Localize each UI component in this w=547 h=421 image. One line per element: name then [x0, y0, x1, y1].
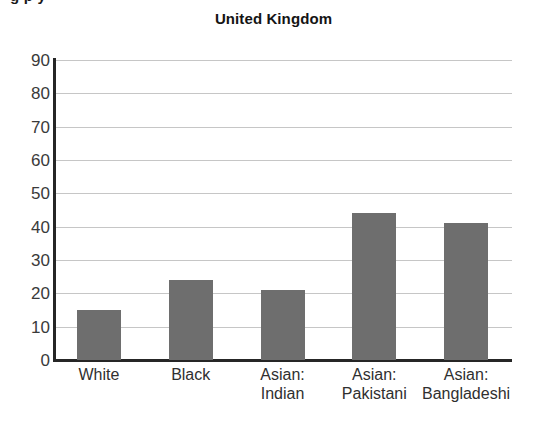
bar: [77, 310, 121, 360]
chart-title: United Kingdom: [0, 10, 547, 27]
y-axis-tick-labels: 9080706050403020100: [0, 60, 50, 360]
bar: [261, 290, 305, 360]
y-axis-tick-label: 30: [4, 252, 50, 269]
y-axis-tick-label: 60: [4, 152, 50, 169]
bar-series: [53, 60, 512, 360]
y-axis-tick-label: 70: [4, 118, 50, 135]
bar: [169, 280, 213, 360]
chart-screenshot: g p y United Kingdom 9080706050403020100…: [0, 0, 547, 421]
y-axis-tick-label: 80: [4, 85, 50, 102]
y-axis-tick-label: 10: [4, 318, 50, 335]
category-label-line-1: Asian:: [406, 366, 526, 385]
y-axis-tick-label: 40: [4, 218, 50, 235]
y-axis-tick-label: 90: [4, 52, 50, 69]
y-axis-tick-label: 50: [4, 185, 50, 202]
category-label-line-2: Bangladeshi: [406, 385, 526, 404]
cropped-heading-fragment: g p y: [10, 0, 330, 5]
y-axis-tick-label: 20: [4, 285, 50, 302]
x-axis-category-label: Asian:Bangladeshi: [406, 366, 526, 404]
bar: [444, 223, 488, 360]
bar: [352, 213, 396, 360]
